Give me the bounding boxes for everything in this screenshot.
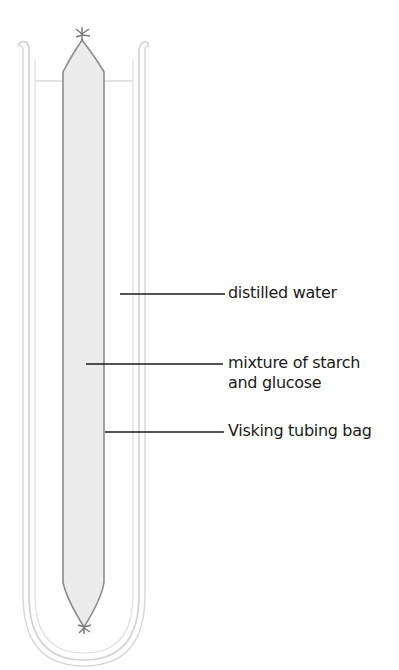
visking-tubing-bag: [63, 40, 104, 627]
label-visking-bag: Visking tubing bag: [228, 421, 372, 441]
label-visking-bag-text: Visking tubing bag: [228, 421, 372, 440]
label-starch-glucose-line-2: and glucose: [228, 373, 360, 393]
top-knot-icon: [76, 27, 90, 40]
bottom-knot-icon: [78, 625, 91, 634]
label-starch-glucose: mixture of starch and glucose: [228, 353, 360, 393]
osmosis-diagram: [0, 0, 399, 670]
leader-lines: [86, 294, 225, 432]
label-starch-glucose-line-1: mixture of starch: [228, 353, 360, 373]
bag-body: [63, 40, 104, 627]
label-distilled-water-text: distilled water: [228, 283, 337, 302]
label-distilled-water: distilled water: [228, 283, 337, 303]
